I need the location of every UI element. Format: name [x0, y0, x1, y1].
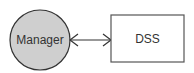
dss-label: DSS — [135, 32, 160, 46]
bidirectional-arrow — [70, 34, 111, 46]
diagram-canvas: Manager DSS — [0, 0, 194, 73]
manager-node: Manager — [10, 10, 70, 70]
dss-node: DSS — [111, 15, 184, 62]
manager-label: Manager — [16, 33, 63, 47]
